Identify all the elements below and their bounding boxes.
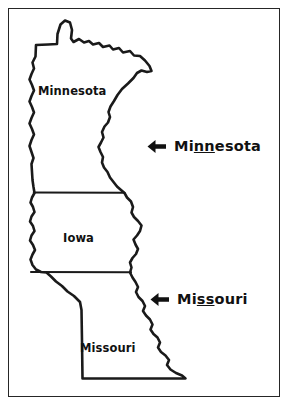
annotation-missouri-underlined: ss xyxy=(197,291,215,307)
annotation-missouri: Missouri xyxy=(150,291,248,307)
annotation-missouri-suffix: ouri xyxy=(214,291,247,307)
map-label-iowa: Iowa xyxy=(63,231,94,245)
worksheet-page: Minnesota Iowa Missouri Minnesota Missou… xyxy=(0,0,290,407)
annotation-missouri-text: Missouri xyxy=(177,291,248,307)
annotation-minnesota-underlined: nn xyxy=(194,138,215,154)
left-arrow-icon xyxy=(147,139,167,154)
annotation-minnesota: Minnesota xyxy=(147,138,261,154)
annotation-minnesota-text: Minnesota xyxy=(174,138,261,154)
map-label-missouri: Missouri xyxy=(80,341,136,355)
annotation-missouri-prefix: Mi xyxy=(177,291,197,307)
left-arrow-icon xyxy=(150,292,170,307)
annotation-minnesota-prefix: Mi xyxy=(174,138,194,154)
map-outline-path xyxy=(30,21,186,379)
annotation-minnesota-suffix: esota xyxy=(215,138,261,154)
state-map-graphic xyxy=(0,0,290,407)
map-label-minnesota: Minnesota xyxy=(38,84,106,98)
